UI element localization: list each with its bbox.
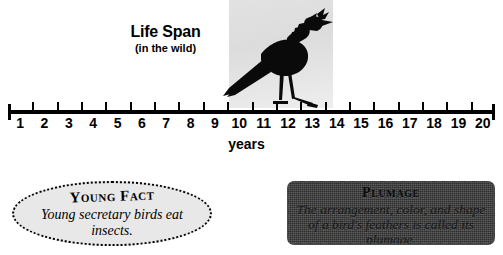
axis-tick-label: 12 [276,116,300,130]
axis-tick-mark [203,102,205,111]
secretary-bird-silhouette-icon [221,2,341,110]
axis-tick-label: 11 [252,116,276,130]
axis-tick-label: 16 [373,116,397,130]
axis-tick-label: 19 [446,116,470,130]
plumage-callout: Plumage The arrangement, color, and shap… [287,181,495,245]
axis-tick-mark [325,102,327,111]
axis-tick-label: 6 [130,116,154,130]
axis-tick-mark [178,102,180,111]
axis-tick-mark [252,102,254,111]
axis-tick-label: 10 [227,116,251,130]
axis-tick-label: 17 [398,116,422,130]
plumage-body: The arrangement, color, and shape of a b… [295,202,487,245]
axis-tick-mark [398,102,400,111]
axis-tick-mark [81,102,83,111]
axis-unit-label-text: years [228,136,265,152]
young-fact-title: Young Fact [14,185,210,209]
axis-tick-label: 13 [300,116,324,130]
page-title: Life Span [103,24,228,41]
axis-tick-mark [130,102,132,111]
axis-tick-mark [446,102,448,111]
axis-tick-label: 20 [471,116,495,130]
axis-tick-label: 2 [33,116,57,130]
axis-tick-label: 4 [81,116,105,130]
life-span-infographic: Life Span (in the wild) 1234567891011121… [0,0,503,255]
axis-tick-mark [373,102,375,111]
axis-unit-label: years [0,136,503,152]
axis-tick-label: 8 [179,116,203,130]
axis-tick-label: 18 [422,116,446,130]
chart-title-block: Life Span (in the wild) [103,24,228,54]
axis-tick-label: 7 [154,116,178,130]
axis-tick-mark [422,102,424,111]
axis-tick-mark [154,102,156,111]
axis-tick-mark [57,102,59,111]
axis-tick-mark [300,102,302,111]
axis-tick-mark [227,102,229,111]
axis-tick-mark [471,102,473,111]
axis-tick-label: 5 [106,116,130,130]
young-fact-body: Young secretary birds eat insects. [28,207,196,239]
plumage-title: Plumage [289,185,493,201]
axis-tick-mark [276,102,278,111]
axis-tick-label: 15 [349,116,373,130]
axis-tick-mark [32,102,34,111]
page-subtitle: (in the wild) [103,43,228,55]
young-fact-callout: Young Fact Young secretary birds eat ins… [12,181,212,246]
axis-tick-label: 9 [203,116,227,130]
axis-tick-mark [105,102,107,111]
axis-tick-label: 3 [57,116,81,130]
axis-tick-label: 14 [325,116,349,130]
axis-tick-label: 1 [8,116,32,130]
axis-tick-mark [349,102,351,111]
